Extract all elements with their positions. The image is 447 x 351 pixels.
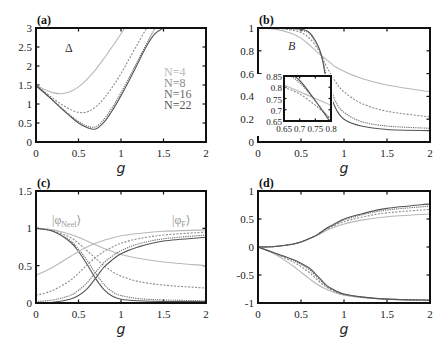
x-tick-label: 0 xyxy=(255,308,261,320)
x-tick-label: 0.7 xyxy=(294,124,306,134)
y-tick-label: 0.8 xyxy=(271,83,283,93)
inset: 0.650.70.750.80.650.70.750.80.85 xyxy=(254,69,337,136)
legend: N=4N=8N=16N=22 xyxy=(164,65,191,112)
x-axis-label: g xyxy=(117,160,126,176)
panel-label: (b) xyxy=(259,13,274,27)
x-tick-label: 0.5 xyxy=(72,147,86,159)
series-line-n-22 xyxy=(36,28,164,129)
panel-label: (d) xyxy=(259,176,274,190)
series-line-lower-n-16 xyxy=(258,247,430,300)
legend-item: N=22 xyxy=(164,98,191,112)
y-tick-label: -0.5 xyxy=(237,269,255,281)
series-line-f-n-22 xyxy=(36,237,206,303)
panel-c: 00.511.5200.511.5(c)g|φNeel⟩|φF⟩ xyxy=(18,176,209,337)
y-tick-label: 1.5 xyxy=(18,79,32,91)
y-tick-label: 1 xyxy=(27,222,33,234)
x-axis-label: g xyxy=(340,160,349,176)
y-tick-label: -1 xyxy=(245,297,254,309)
x-tick-label: 1 xyxy=(341,147,347,159)
series-line-f-n-16 xyxy=(36,235,206,301)
y-tick-label: 0.5 xyxy=(18,117,32,129)
x-tick-label: 1.5 xyxy=(157,147,171,159)
figure: 00.511.5200.511.522.53(a)gΔN=4N=8N=16N=2… xyxy=(0,0,447,351)
x-tick-label: 0.75 xyxy=(307,124,323,134)
y-tick-label: 0.5 xyxy=(18,260,32,272)
series-line-upper-n-22 xyxy=(258,204,430,247)
y-tick-label: 1 xyxy=(249,22,255,34)
x-tick-label: 0 xyxy=(33,147,39,159)
y-tick-label: 0 xyxy=(27,297,33,309)
x-tick-label: 0.5 xyxy=(294,308,308,320)
x-axis-label: g xyxy=(117,321,126,337)
x-tick-label: 2 xyxy=(203,308,209,320)
series-line-lower-n-4 xyxy=(258,247,430,300)
y-tick-label: 3 xyxy=(27,22,33,34)
b-annotation: B xyxy=(288,39,296,53)
series-line-upper-n-16 xyxy=(258,206,430,247)
panel-label: (c) xyxy=(37,176,50,190)
series-group xyxy=(36,20,164,129)
x-tick-label: 1.5 xyxy=(380,147,394,159)
x-tick-label: 1.5 xyxy=(380,308,394,320)
series-line-f-n-4 xyxy=(36,230,206,276)
panel-b: 00.511.5200.20.40.60.81(b)gB0.650.70.750… xyxy=(240,13,433,176)
y-tick-label: 0.65 xyxy=(266,117,282,127)
panel-label: (a) xyxy=(37,13,51,27)
axes-frame xyxy=(258,191,430,303)
x-tick-label: 0 xyxy=(255,147,261,159)
series-line-n-16 xyxy=(36,28,155,127)
y-tick-label: 2.5 xyxy=(18,41,32,53)
x-tick-label: 2 xyxy=(427,308,433,320)
x-tick-label: 0.8 xyxy=(325,124,337,134)
axes-frame xyxy=(36,191,206,303)
x-tick-label: 1.5 xyxy=(157,308,171,320)
series-line-n-4 xyxy=(36,20,130,93)
y-tick-label: 0 xyxy=(249,241,255,253)
y-tick-label: 0.6 xyxy=(240,68,254,80)
series-line-lower-n-22 xyxy=(258,247,430,300)
series-line-lower-n-8 xyxy=(258,247,430,300)
panel-d: 00.511.52-1-0.500.51(d)g xyxy=(237,176,433,337)
phi-f-label: |φF⟩ xyxy=(172,213,190,229)
panel-a: 00.511.5200.511.522.53(a)gΔN=4N=8N=16N=2… xyxy=(18,13,209,176)
x-tick-label: 2 xyxy=(203,147,209,159)
y-tick-label: 1.5 xyxy=(18,185,32,197)
series-group xyxy=(36,228,206,303)
x-tick-label: 1 xyxy=(118,308,124,320)
y-tick-label: 0 xyxy=(249,136,255,148)
x-tick-label: 1 xyxy=(341,308,347,320)
x-tick-label: 0 xyxy=(33,308,39,320)
x-tick-label: 2 xyxy=(427,147,433,159)
y-tick-label: 0.4 xyxy=(240,90,254,102)
y-tick-label: 2 xyxy=(27,60,33,72)
x-tick-label: 1 xyxy=(118,147,124,159)
y-tick-label: 0 xyxy=(27,136,33,148)
x-axis-label: g xyxy=(340,321,349,337)
y-tick-label: 0.85 xyxy=(266,72,282,82)
phi-neel-label: |φNeel⟩ xyxy=(52,213,81,229)
series-line-neel-n-8 xyxy=(36,228,206,288)
delta-annotation: Δ xyxy=(65,41,73,55)
series-group xyxy=(258,204,430,300)
y-tick-label: 0.7 xyxy=(271,106,283,116)
y-tick-label: 0.75 xyxy=(266,95,282,105)
y-tick-label: 0.2 xyxy=(240,113,254,125)
y-tick-label: 0.8 xyxy=(240,45,254,57)
x-tick-label: 0.5 xyxy=(72,308,86,320)
x-tick-label: 0.5 xyxy=(294,147,308,159)
y-tick-label: 1 xyxy=(27,98,33,110)
y-tick-label: 1 xyxy=(249,185,255,197)
y-tick-label: 0.5 xyxy=(240,213,254,225)
